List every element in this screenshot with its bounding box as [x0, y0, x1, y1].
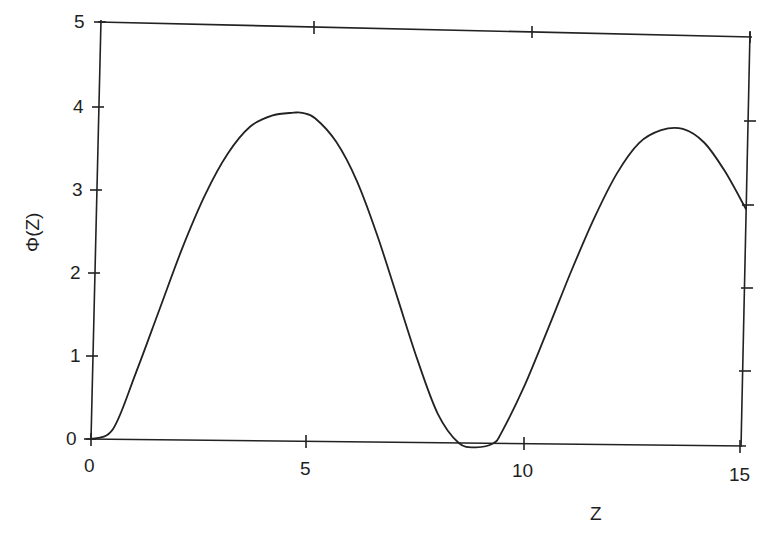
bottom-axis — [86, 439, 746, 446]
plot-frame — [86, 20, 752, 447]
y-tick-label-5: 5 — [74, 12, 85, 31]
y-axis-title: Φ(Z) — [22, 213, 44, 252]
top-axis — [98, 22, 752, 37]
y-tick-label-3: 3 — [72, 180, 83, 199]
x-tick-label-10: 10 — [512, 461, 533, 480]
y-tick-label-0: 0 — [66, 429, 77, 448]
x-axis-title: Z — [590, 503, 602, 525]
y-tick-label-2: 2 — [70, 263, 81, 282]
left-axis — [91, 20, 101, 440]
phi-curve-line — [91, 112, 746, 447]
x-tick-label-0: 0 — [84, 456, 95, 475]
right-axis — [741, 32, 750, 447]
x-tick-label-15: 15 — [729, 465, 750, 484]
x-tick-label-5: 5 — [300, 459, 311, 478]
line-chart — [0, 0, 763, 533]
axis-ticks — [84, 21, 756, 453]
y-tick-label-4: 4 — [73, 97, 84, 116]
y-tick-label-1: 1 — [70, 346, 81, 365]
